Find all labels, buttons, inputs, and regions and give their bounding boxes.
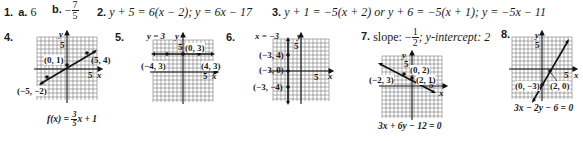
axis-x-label: x [97, 70, 102, 80]
point [548, 69, 552, 73]
axis-y-label: y [175, 31, 179, 41]
tick-label-y: 5 [178, 42, 183, 52]
point-label: (0, −3) [515, 81, 540, 91]
equation: 3x − 2y − 6 = 0 [514, 103, 573, 113]
answer-1b-label: b. [52, 3, 62, 15]
tick-label-x: 5 [564, 70, 569, 80]
point-label: (−3, 0) [259, 65, 284, 75]
point-label: (−4, 3) [141, 61, 166, 71]
axis-x-label: x [439, 88, 444, 98]
point-label: (4, 3) [201, 61, 221, 71]
point-label: (0, 3) [185, 43, 205, 53]
answer-1b: b. −75 [52, 0, 79, 21]
tick-label-y: 5 [535, 40, 540, 50]
tick-label-y: 5 [60, 40, 65, 50]
point [165, 52, 169, 56]
answer-1-number: 1. [4, 6, 13, 18]
answer-1a-value: 6 [30, 5, 36, 19]
answer-1a-label: a. [18, 6, 27, 18]
equation-right: x + 1 [77, 114, 97, 124]
answer-7-fraction: 12 [412, 27, 419, 48]
graph-8 [475, 28, 583, 106]
equation: f(x) = 35x + 1 [47, 111, 97, 128]
point-label: (−5, −2) [17, 86, 47, 96]
equation-left: f(x) = [47, 114, 71, 124]
point-label: (0, 2) [410, 65, 430, 75]
line-label: y = 3 [147, 31, 165, 41]
answer-7: 7. slope: −12; y-intercept: 2 [361, 27, 490, 48]
point [85, 51, 89, 55]
point-label: (−2, 3) [369, 75, 394, 85]
fraction-denominator: 5 [72, 11, 79, 21]
answer-7-number: 7. [361, 30, 370, 42]
axes [379, 51, 447, 120]
point-label: (0, 1) [44, 55, 64, 65]
line-label: x = −3 [255, 31, 279, 41]
answer-1b-sign: − [65, 3, 72, 17]
point-label: (2, 0) [550, 81, 570, 91]
point-label: (−3, −4) [253, 82, 283, 92]
point [410, 76, 414, 80]
tick-label-x: 5 [203, 71, 208, 81]
tick-label-y: 5 [294, 41, 299, 51]
answer-3-text: y + 1 = −5(x + 2) or y + 6 = −5(x + 1); … [284, 5, 546, 19]
answer-3: 3. y + 1 = −5(x + 2) or y + 6 = −5(x + 1… [272, 5, 546, 20]
axis-x-label: x [574, 70, 579, 80]
point [402, 72, 406, 76]
answer-3-number: 3. [272, 6, 281, 18]
answer-1b-fraction: 75 [72, 0, 79, 21]
axis-x-label: x [212, 71, 217, 81]
axis-y-label: y [297, 31, 301, 41]
tick-label-x: 5 [88, 70, 93, 80]
tick-label-y: 5 [404, 59, 409, 69]
tick-label-x: 5 [314, 72, 319, 82]
answer-1: 1. a. 6 [4, 5, 36, 20]
answer-7-slope-label: slope: − [373, 30, 411, 44]
axis-x-label: x [328, 71, 333, 81]
fraction-denominator: 2 [412, 38, 419, 48]
point-label: (5, 4) [91, 55, 111, 65]
axis-y-label: y [535, 30, 539, 40]
graph-4 [0, 28, 115, 108]
point [286, 85, 290, 89]
point [45, 75, 49, 79]
point [540, 83, 544, 87]
point [286, 53, 290, 57]
point [286, 69, 290, 73]
axis-y-label: y [59, 29, 63, 39]
answer-2: 2. y + 5 = 6(x − 2); y = 6x − 17 [97, 5, 252, 20]
point-label: (−3, 4) [259, 50, 284, 60]
answer-2-text: y + 5 = 6(x − 2); y = 6x − 17 [109, 5, 252, 19]
point [65, 63, 69, 67]
answer-2-number: 2. [97, 6, 106, 18]
tick-label-x: 5 [429, 80, 434, 90]
arrow-head-icon [286, 101, 290, 105]
arrow-head-icon [565, 39, 569, 44]
equation: 3x + 6y − 12 = 0 [378, 121, 442, 131]
